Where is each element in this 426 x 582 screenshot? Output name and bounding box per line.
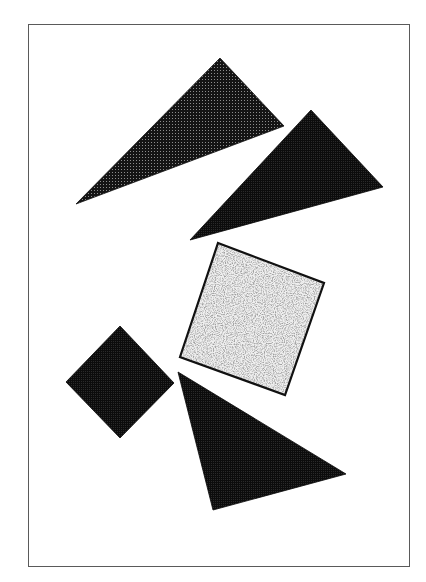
- diamond-left: [66, 326, 174, 438]
- shapes-layer: [0, 0, 426, 582]
- figure-canvas: [0, 0, 426, 582]
- square-speckled: [170, 235, 335, 405]
- triangle-bottom: [178, 372, 346, 510]
